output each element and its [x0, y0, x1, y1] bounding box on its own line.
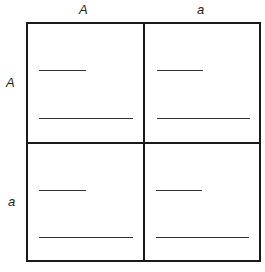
grid-horizontal-divider [26, 142, 261, 144]
answer-blank-short[interactable] [39, 190, 86, 191]
row-header-a: a [8, 194, 15, 209]
answer-blank-long[interactable] [157, 118, 250, 119]
answer-blank-long[interactable] [156, 237, 249, 238]
answer-blank-short[interactable] [157, 70, 203, 71]
answer-blank-long[interactable] [39, 237, 133, 238]
row-header-A: A [6, 75, 15, 90]
answer-blank-short[interactable] [39, 70, 86, 71]
answer-blank-long[interactable] [39, 118, 133, 119]
answer-blank-short[interactable] [156, 190, 202, 191]
column-header-A: A [79, 2, 88, 17]
column-header-a: a [197, 2, 204, 17]
